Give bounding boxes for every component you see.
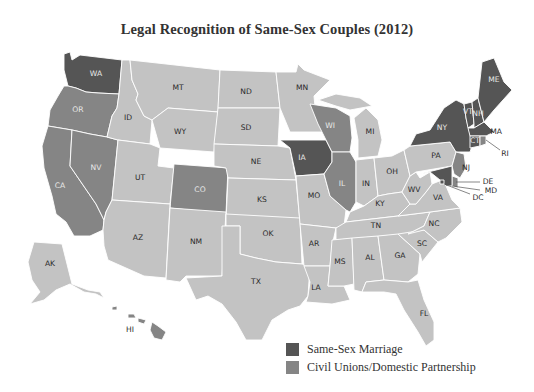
state-label-al: AL xyxy=(365,253,375,262)
state-label-tn: TN xyxy=(370,221,381,230)
state-label-az: AZ xyxy=(133,233,143,242)
ri-callout-line xyxy=(486,140,500,150)
us-map: WAORCANVIDMTWYUTCOAZNMNDSDNEKSOKTXMNIAMO… xyxy=(0,0,534,392)
state-label-ri: RI xyxy=(501,149,509,158)
state-label-mt: MT xyxy=(172,83,184,92)
state-label-la: LA xyxy=(311,283,321,292)
legend-swatch-civil-union xyxy=(286,361,299,374)
state-label-id: ID xyxy=(124,113,132,122)
state-HI-3[interactable] xyxy=(138,318,146,324)
state-label-nc: NC xyxy=(429,219,440,228)
state-HI-4[interactable] xyxy=(112,306,117,310)
state-label-ms: MS xyxy=(334,257,346,266)
state-label-wa: WA xyxy=(90,69,103,78)
state-label-il: IL xyxy=(339,179,346,188)
state-label-dc: DC xyxy=(472,193,483,202)
state-label-ut: UT xyxy=(135,173,146,182)
state-label-in: IN xyxy=(362,179,370,188)
state-RI[interactable] xyxy=(480,136,486,146)
state-label-co: CO xyxy=(194,185,205,194)
legend-label-civil-union: Civil Unions/Domestic Partnership xyxy=(307,360,476,375)
state-label-hi: HI xyxy=(126,325,134,334)
state-label-ny: NY xyxy=(437,123,448,132)
state-label-de: DE xyxy=(483,177,494,186)
state-HI-2[interactable] xyxy=(128,314,136,318)
state-label-pa: PA xyxy=(431,151,441,160)
state-label-me: ME xyxy=(488,75,500,84)
state-label-sc: SC xyxy=(417,239,427,248)
state-label-mn: MN xyxy=(296,83,308,92)
state-label-ca: CA xyxy=(55,181,66,190)
state-HI[interactable] xyxy=(150,322,166,340)
state-label-va: VA xyxy=(433,193,444,202)
legend-item-civil-union: Civil Unions/Domestic Partnership xyxy=(286,358,476,376)
state-label-ct: CT xyxy=(470,136,480,145)
state-label-oh: OH xyxy=(386,167,398,176)
state-label-nh: NH xyxy=(472,109,483,118)
state-label-ga: GA xyxy=(394,251,406,260)
state-label-ne: NE xyxy=(251,157,262,166)
md-callout-line xyxy=(452,186,480,190)
state-label-tx: TX xyxy=(250,277,261,286)
state-UT[interactable] xyxy=(112,140,174,204)
state-label-nd: ND xyxy=(240,87,252,96)
state-label-sd: SD xyxy=(241,123,252,132)
state-label-nv: NV xyxy=(91,163,103,172)
legend-swatch-marriage xyxy=(286,343,299,356)
state-label-mo: MO xyxy=(308,191,321,200)
state-label-ar: AR xyxy=(309,239,320,248)
state-label-ak: AK xyxy=(45,259,56,268)
legend-label-marriage: Same-Sex Marriage xyxy=(307,342,403,357)
state-label-ks: KS xyxy=(257,195,267,204)
state-label-md: MD xyxy=(485,186,498,195)
state-label-ky: KY xyxy=(375,199,385,208)
state-label-mi: MI xyxy=(366,127,375,136)
state-label-ia: IA xyxy=(298,153,306,162)
state-label-or: OR xyxy=(72,105,84,114)
state-label-ma: MA xyxy=(490,127,503,136)
map-legend: Same-Sex Marriage Civil Unions/Domestic … xyxy=(286,340,476,376)
state-label-wv: WV xyxy=(408,185,422,194)
state-label-wy: WY xyxy=(174,127,187,136)
state-label-fl: FL xyxy=(420,309,429,318)
legend-item-marriage: Same-Sex Marriage xyxy=(286,340,476,358)
state-AK[interactable] xyxy=(28,242,104,304)
state-label-nm: NM xyxy=(190,237,202,246)
state-label-wi: WI xyxy=(325,121,335,130)
state-DC[interactable] xyxy=(440,180,444,184)
state-label-nj: NJ xyxy=(462,163,470,172)
state-label-ok: OK xyxy=(263,229,275,238)
